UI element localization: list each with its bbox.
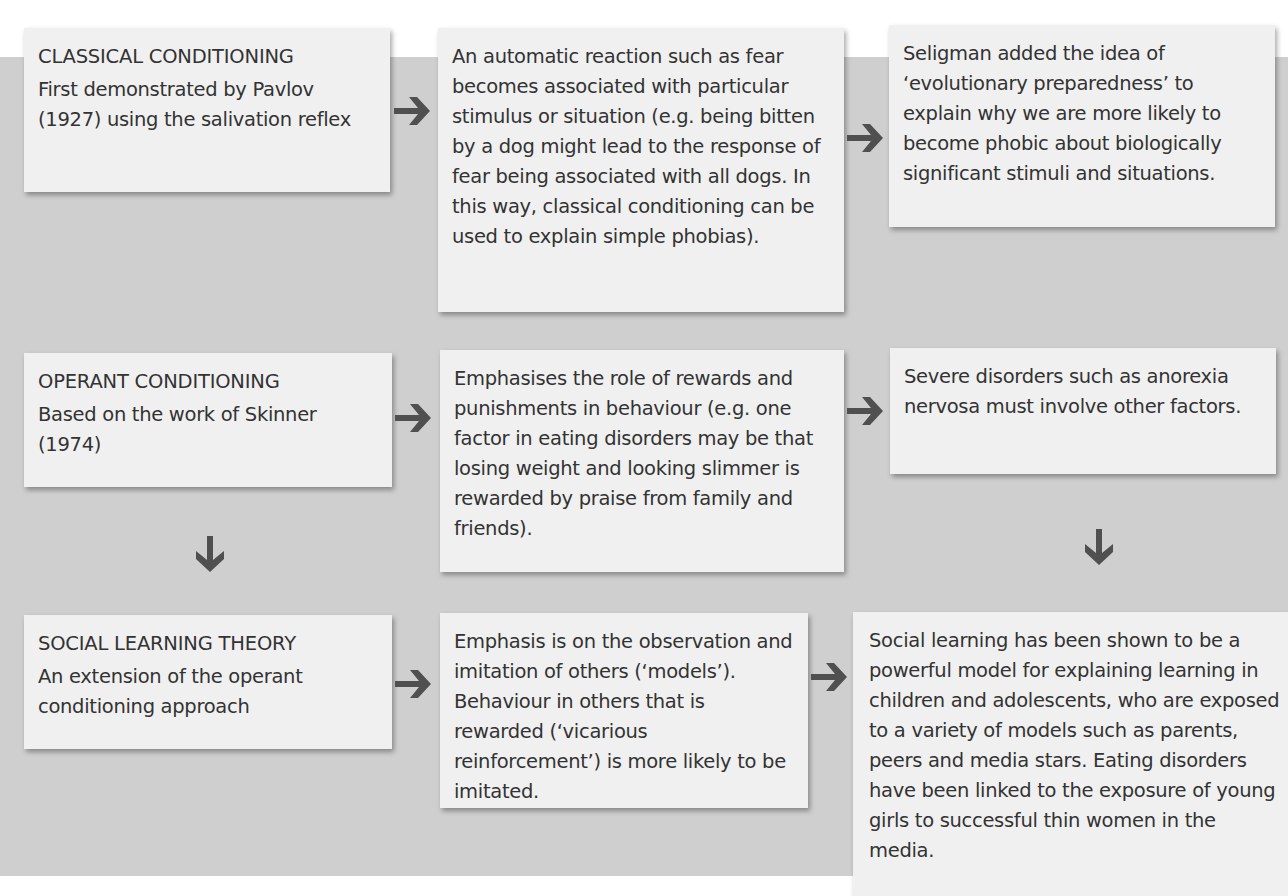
arrow-down-icon bbox=[190, 534, 230, 574]
social-learning-evaluation-box: Social learning has been shown to be a p… bbox=[853, 612, 1288, 896]
arrow-right-icon bbox=[845, 118, 885, 158]
box-text: Emphasises the role of rewards and punis… bbox=[454, 364, 830, 544]
classical-explanation-box: An automatic reaction such as fear becom… bbox=[438, 28, 844, 312]
box-title: Classical conditioning bbox=[38, 42, 376, 72]
arrow-right-icon bbox=[393, 664, 433, 704]
classical-conditioning-box: Classical conditioning First demonstrate… bbox=[24, 28, 390, 192]
classical-evaluation-box: Seligman added the idea of ‘evolutionary… bbox=[889, 25, 1275, 227]
social-learning-theory-box: Social learning theory An extension of t… bbox=[24, 615, 392, 749]
arrow-right-icon bbox=[392, 91, 432, 131]
arrow-right-icon bbox=[809, 657, 849, 697]
box-text: First demonstrated by Pavlov (1927) usin… bbox=[38, 75, 376, 135]
operant-explanation-box: Emphasises the role of rewards and punis… bbox=[440, 350, 844, 572]
arrow-right-icon bbox=[845, 391, 885, 431]
box-text: Emphasis is on the observation and imita… bbox=[454, 627, 794, 807]
box-title: Social learning theory bbox=[38, 629, 378, 659]
arrow-down-icon bbox=[1079, 527, 1119, 567]
box-text: Social learning has been shown to be a p… bbox=[869, 626, 1280, 866]
arrow-right-icon bbox=[393, 398, 433, 438]
social-learning-explanation-box: Emphasis is on the observation and imita… bbox=[440, 613, 808, 808]
box-text: An extension of the operant conditioning… bbox=[38, 662, 378, 722]
box-text: Based on the work of Skinner (1974) bbox=[38, 400, 378, 460]
box-text: Severe disorders such as anorexia nervos… bbox=[904, 362, 1262, 422]
box-text: Seligman added the idea of ‘evolutionary… bbox=[903, 39, 1261, 189]
operant-evaluation-box: Severe disorders such as anorexia nervos… bbox=[890, 348, 1276, 474]
box-text: An automatic reaction such as fear becom… bbox=[452, 42, 830, 252]
operant-conditioning-box: Operant conditioning Based on the work o… bbox=[24, 353, 392, 487]
box-title: Operant conditioning bbox=[38, 367, 378, 397]
